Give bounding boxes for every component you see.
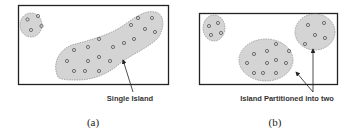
diagram-canvas: Single Island (a) (0, 0, 360, 138)
island-b-left (239, 39, 293, 81)
annotation-b: Island Partitioned into two (240, 94, 334, 103)
caption-a: (a) (87, 116, 100, 129)
island-b-right (295, 14, 335, 50)
caption-b: (b) (269, 116, 282, 129)
panel-b: Island Partitioned into two (b) (200, 14, 338, 130)
small-island-b (203, 15, 225, 41)
panel-a: Single Island (a) (19, 6, 169, 130)
annotation-a: Single Island (107, 94, 154, 103)
small-island-a (20, 13, 42, 37)
